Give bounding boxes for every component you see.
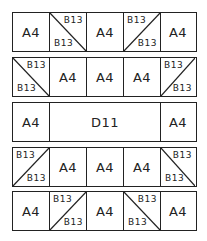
cell-label: A4 xyxy=(161,204,195,219)
square-cell: A4 xyxy=(87,58,124,96)
half-square-triangle-cell: B13 B13 xyxy=(50,13,87,51)
quilt-row-2: B13 B13 A4 A4 A4 B13 B13 xyxy=(12,57,197,97)
cell-label-top: B13 xyxy=(53,194,72,204)
cell-label-top: B13 xyxy=(138,194,157,204)
cell-label: A4 xyxy=(13,115,49,130)
cell-label: A4 xyxy=(124,160,160,175)
cell-label-top: B13 xyxy=(16,150,35,160)
cell-label: A4 xyxy=(124,70,160,85)
half-square-triangle-cell: B13 B13 xyxy=(13,58,50,96)
cell-label-bottom: B13 xyxy=(138,38,157,48)
cell-label: A4 xyxy=(50,160,86,175)
square-cell: A4 xyxy=(50,148,87,186)
quilt-row-3: A4 D11 A4 xyxy=(12,102,197,142)
cell-label-top: B13 xyxy=(127,15,146,25)
quilt-row-1: A4 B13 B13 A4 B13 B13 A4 xyxy=(12,12,197,52)
cell-label-bottom: B13 xyxy=(173,83,192,93)
cell-label: A4 xyxy=(87,70,123,85)
quilt-row-4: B13 B13 A4 A4 A4 B13 B13 xyxy=(12,147,197,187)
square-cell: A4 xyxy=(13,13,50,51)
cell-label-bottom: B13 xyxy=(54,38,73,48)
square-cell: A4 xyxy=(124,58,161,96)
cell-label: A4 xyxy=(161,115,195,130)
cell-label-top: B13 xyxy=(173,150,192,160)
cell-label-top: B13 xyxy=(64,15,83,25)
square-cell: A4 xyxy=(13,103,50,141)
cell-label-bottom: B13 xyxy=(128,217,147,227)
cell-label: A4 xyxy=(161,25,195,40)
cell-label-bottom: B13 xyxy=(17,83,36,93)
square-cell: A4 xyxy=(13,192,50,230)
quilt-row-5: A4 B13 B13 A4 B13 B13 A4 xyxy=(12,191,197,231)
cell-label: A4 xyxy=(50,70,86,85)
cell-label-top: B13 xyxy=(164,60,183,70)
cell-label-bottom: B13 xyxy=(165,173,184,183)
square-cell: A4 xyxy=(161,192,195,230)
half-square-triangle-cell: B13 B13 xyxy=(161,148,195,186)
cell-label-bottom: B13 xyxy=(27,173,46,183)
half-square-triangle-cell: B13 B13 xyxy=(124,13,161,51)
square-cell: A4 xyxy=(50,58,87,96)
cell-label-top: B13 xyxy=(27,60,46,70)
cell-label: D11 xyxy=(50,115,160,130)
square-cell: A4 xyxy=(161,13,195,51)
square-cell: A4 xyxy=(161,103,195,141)
half-square-triangle-cell: B13 B13 xyxy=(124,192,161,230)
square-cell: A4 xyxy=(87,13,124,51)
half-square-triangle-cell: B13 B13 xyxy=(50,192,87,230)
cell-label: A4 xyxy=(13,204,49,219)
cell-label: A4 xyxy=(87,204,123,219)
square-cell: A4 xyxy=(87,148,124,186)
wide-rectangle-cell: D11 xyxy=(50,103,161,141)
cell-label: A4 xyxy=(87,160,123,175)
half-square-triangle-cell: B13 B13 xyxy=(13,148,50,186)
cell-label: A4 xyxy=(13,25,49,40)
square-cell: A4 xyxy=(124,148,161,186)
cell-label-bottom: B13 xyxy=(64,217,83,227)
half-square-triangle-cell: B13 B13 xyxy=(161,58,195,96)
cell-label: A4 xyxy=(87,25,123,40)
square-cell: A4 xyxy=(87,192,124,230)
